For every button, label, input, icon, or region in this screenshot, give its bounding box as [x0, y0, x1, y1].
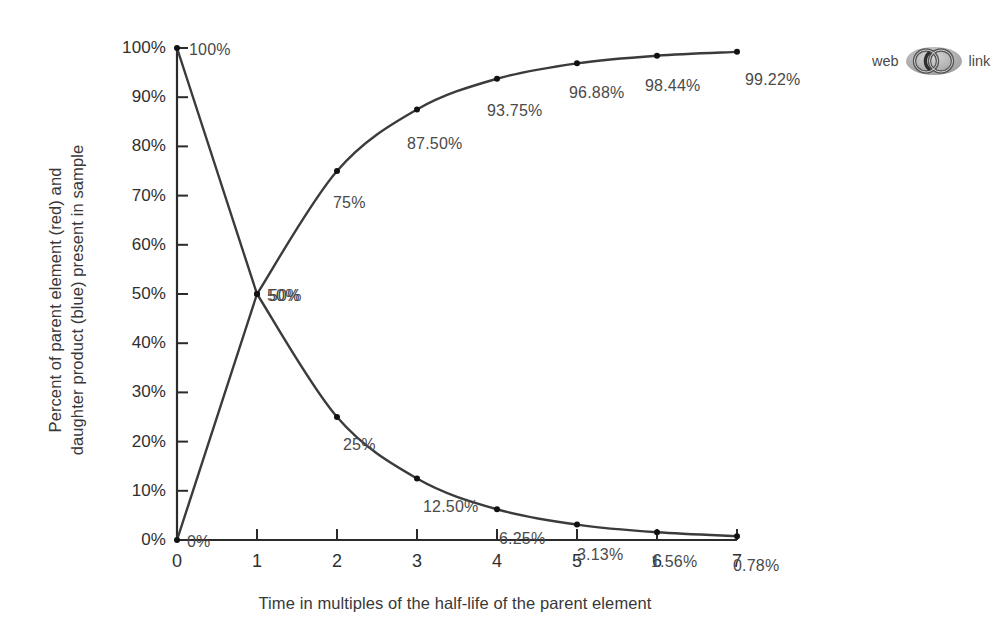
point-label-parent-element-5: 3.13% [577, 546, 623, 564]
point-label-daughter-product-5: 96.88% [569, 84, 624, 102]
interlocking-rings-icon [905, 46, 963, 76]
point-label-daughter-product-4: 93.75% [487, 102, 542, 120]
point-label-daughter-product-7: 99.22% [745, 71, 800, 89]
data-point-labels: 100%50%25%12.50%6.25%3.13%1.56%0.78%0%50… [0, 0, 994, 625]
web-link-badge[interactable]: web link [872, 46, 990, 76]
web-link-prefix-label: web [872, 53, 899, 69]
point-label-parent-element-0: 100% [189, 41, 231, 59]
point-label-daughter-product-6: 98.44% [645, 77, 700, 95]
point-label-parent-element-4: 6.25% [499, 530, 545, 548]
point-label-parent-element-6: 1.56% [651, 553, 697, 571]
point-label-parent-element-7: 0.78% [733, 557, 779, 575]
point-label-daughter-product-0: 0% [187, 533, 211, 551]
x-axis-title-text: Time in multiples of the half-life of th… [259, 594, 652, 613]
point-label-daughter-product-3: 87.50% [407, 135, 462, 153]
point-label-parent-element-2: 25% [343, 436, 376, 454]
x-axis-title: Time in multiples of the half-life of th… [0, 594, 994, 613]
point-label-daughter-product-2: 75% [333, 194, 366, 212]
point-label-daughter-product-1: 50% [267, 287, 300, 305]
decay-curve-chart: Percent of parent element (red) and daug… [0, 0, 994, 625]
web-link-suffix-label: link [969, 53, 991, 69]
point-label-parent-element-3: 12.50% [423, 498, 478, 516]
